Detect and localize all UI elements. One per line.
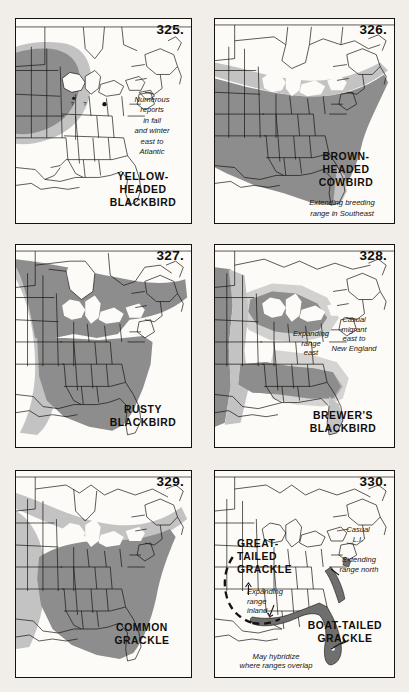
species-name-326: BROWN- HEADED COWBIRD: [304, 150, 388, 189]
panel-cell-329: 329. COMMON GRACKLE: [0, 458, 204, 692]
panel-cell-326: 326. BROWN- HEADED COWBIRD Extending bre…: [204, 0, 409, 232]
species-name-great-tailed-grackle: GREAT- TAILED GRACKLE: [237, 537, 315, 576]
panel-grid: ? ? 325. Numerous reports in fall and wi…: [0, 0, 409, 692]
panel-cell-328: 328. Expanding range east Casual migrant…: [204, 232, 409, 458]
map-panel-325[interactable]: ? ? 325. Numerous reports in fall and wi…: [15, 18, 192, 224]
panel-note-may-hybridize: May hybridize where ranges overlap: [217, 652, 335, 671]
panel-number-327: 327.: [157, 248, 184, 263]
species-name-329: COMMON GRACKLE: [99, 621, 185, 647]
panel-cell-325: ? ? 325. Numerous reports in fall and wi…: [0, 0, 204, 232]
panel-cell-330: 330. GREAT- TAILED GRACKLE Expanding ran…: [204, 458, 409, 692]
panel-cell-327: 327. RUSTY BLACKBIRD: [0, 232, 204, 458]
panel-number-330: 330.: [360, 474, 387, 489]
panel-note-casual-li: Casual L.I.: [334, 525, 382, 544]
panel-note-extending-range-north: Extending range north: [326, 555, 392, 574]
panel-number-328: 328.: [360, 248, 387, 263]
range-map-326: [215, 19, 394, 223]
panel-number-329: 329.: [157, 474, 184, 489]
panel-note-casual-migrant: Casual migrant east to New England: [319, 315, 389, 353]
map-panel-329[interactable]: 329. COMMON GRACKLE: [15, 470, 192, 678]
panel-number-325: 325.: [157, 22, 184, 37]
species-name-boat-tailed-grackle: BOAT-TAILED GRACKLE: [300, 619, 390, 645]
panel-note-326: Extending breeding range in Southeast: [294, 198, 390, 219]
species-name-325: YELLOW- HEADED BLACKBIRD: [101, 170, 185, 209]
map-panel-328[interactable]: 328. Expanding range east Casual migrant…: [214, 244, 395, 448]
map-panel-330[interactable]: 330. GREAT- TAILED GRACKLE Expanding ran…: [214, 470, 395, 678]
panel-number-326: 326.: [360, 22, 387, 37]
panel-note-325: Numerous reports in fall and winter east…: [121, 95, 183, 157]
map-panel-326[interactable]: 326. BROWN- HEADED COWBIRD Extending bre…: [214, 18, 395, 224]
range-map-plate: ? ? 325. Numerous reports in fall and wi…: [0, 0, 409, 692]
species-name-328: BREWER'S BLACKBIRD: [296, 409, 390, 435]
map-panel-327[interactable]: 327. RUSTY BLACKBIRD: [15, 244, 192, 448]
panel-note-expanding-range-inland: Expanding range inland: [247, 587, 305, 616]
species-name-327: RUSTY BLACKBIRD: [101, 403, 185, 429]
